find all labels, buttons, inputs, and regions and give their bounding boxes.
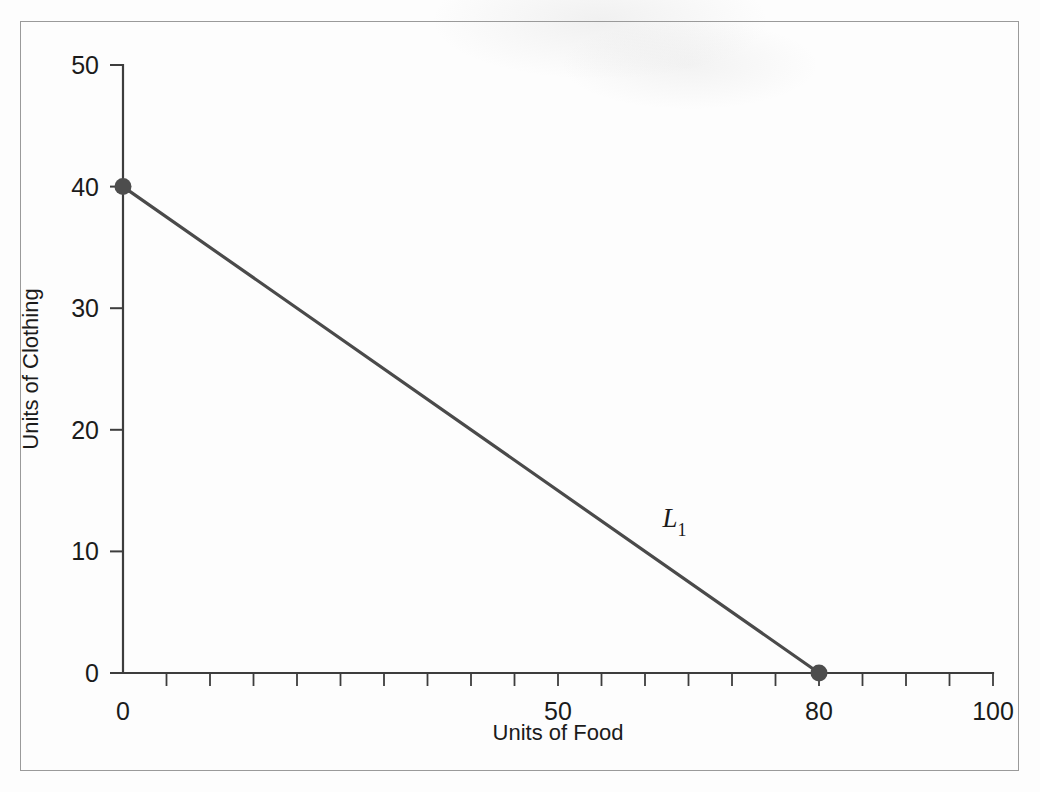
data-point-marker xyxy=(115,178,132,195)
data-point-marker xyxy=(811,665,828,682)
curve-label-letter: L xyxy=(661,503,677,533)
x-axis-ticks xyxy=(123,673,993,686)
y-axis-ticks xyxy=(110,65,123,673)
y-tick-label: 0 xyxy=(85,659,99,687)
y-tick-label: 30 xyxy=(71,294,99,322)
series-line-L1 xyxy=(123,187,819,673)
y-tick-label: 40 xyxy=(71,173,99,201)
curve-label-subscript: 1 xyxy=(677,520,686,540)
series-line-group xyxy=(123,187,819,673)
y-tick-label: 10 xyxy=(71,537,99,565)
curve-label-l1: L1 xyxy=(661,503,686,540)
y-axis-tick-labels: 01020304050 xyxy=(71,51,99,687)
figure-canvas: 01020304050 05080100 L1 Units of Food Un… xyxy=(0,0,1040,792)
y-tick-label: 20 xyxy=(71,416,99,444)
x-tick-label: 80 xyxy=(805,697,833,725)
x-tick-label: 100 xyxy=(972,697,1014,725)
budget-line-chart: 01020304050 05080100 L1 Units of Food Un… xyxy=(0,0,1040,792)
x-tick-label: 0 xyxy=(116,697,130,725)
y-tick-label: 50 xyxy=(71,51,99,79)
x-axis-title: Units of Food xyxy=(493,720,624,745)
y-axis-title: Units of Clothing xyxy=(18,288,43,449)
